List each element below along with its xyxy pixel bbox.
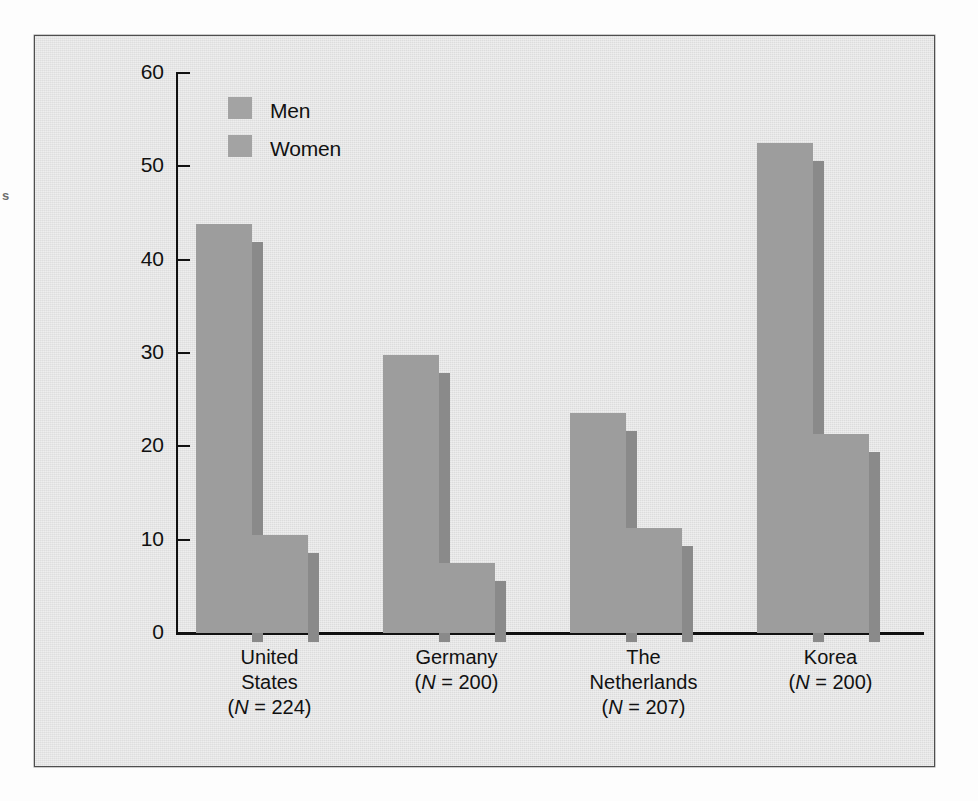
legend-swatch-women-icon [228,135,258,163]
legend-item-women: Women [228,130,341,168]
category-label-0: UnitedStates(N = 224) [176,645,363,720]
legend-swatch-men-icon [228,97,258,125]
y-axis-title: Percentage reporting more distress to se… [46,0,72,60]
legend-item-men: Men [228,92,341,130]
bar-men-2 [570,413,626,633]
scanned-page: s Percentage reporting more distress to … [0,0,978,801]
bar-men-1 [383,355,439,633]
chart-legend: Men Women [228,92,341,168]
category-label-1: Germany(N = 200) [363,645,550,695]
category-label-3: Korea(N = 200) [737,645,924,695]
page-edge-text-fragment: s [2,188,9,203]
bar-group [363,73,550,633]
y-tick-label-10: 10 [118,527,164,551]
legend-label-women: Women [270,137,341,161]
bar-women-0 [252,535,308,633]
legend-label-men: Men [270,99,310,123]
y-tick-label-60: 60 [118,60,164,84]
bar-men-3 [757,143,813,633]
category-label-2: TheNetherlands(N = 207) [550,645,737,720]
y-tick-label-20: 20 [118,433,164,457]
y-tick-label-50: 50 [118,153,164,177]
bar-women-2 [626,528,682,633]
bar-group [550,73,737,633]
bar-women-3 [813,434,869,633]
y-tick-label-0: 0 [118,620,164,644]
y-tick-label-30: 30 [118,340,164,364]
bar-group [737,73,924,633]
bar-women-1 [439,563,495,633]
y-tick-label-40: 40 [118,247,164,271]
bar-men-0 [196,224,252,633]
